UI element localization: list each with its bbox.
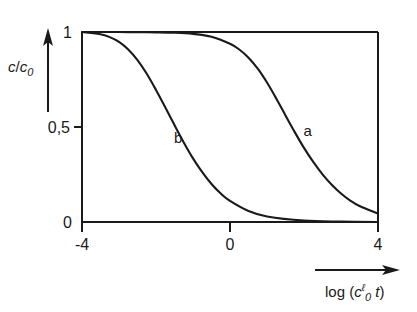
- curve-label-a: a: [304, 122, 313, 139]
- y-axis-arrow-icon: [43, 28, 53, 112]
- y-tick-label-0: 0: [63, 214, 72, 231]
- x-axis-arrow-icon: [315, 265, 400, 275]
- chart-svg: c/c0 1 0,5 0 -4 0 4 b a: [0, 0, 417, 312]
- y-axis-label: c/c0: [8, 58, 34, 78]
- x-tick-label--4: -4: [75, 236, 89, 253]
- y-tick-label-1: 1: [63, 24, 72, 41]
- chart-figure: c/c0 1 0,5 0 -4 0 4 b a: [0, 0, 417, 312]
- x-tick-label-4: 4: [374, 236, 383, 253]
- x-axis-label: log (cℓ0 t): [325, 282, 384, 303]
- y-tick-label-0.5: 0,5: [48, 119, 70, 136]
- curve-a: [82, 32, 378, 214]
- x-tick-label-0: 0: [226, 236, 235, 253]
- curve-label-b: b: [174, 129, 182, 146]
- curve-b: [82, 32, 378, 222]
